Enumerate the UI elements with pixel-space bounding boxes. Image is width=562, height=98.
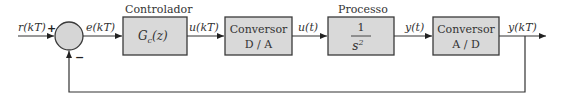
controller-transfer-function: Gc(z) bbox=[138, 29, 168, 45]
adc-line2: A / D bbox=[451, 38, 480, 51]
signal-ykt-label: y(kT) bbox=[507, 21, 537, 34]
summing-junction bbox=[55, 22, 83, 50]
minus-sign: − bbox=[75, 51, 84, 64]
adc-line1: Conversor bbox=[437, 23, 495, 36]
signal-ukt-label: u(kT) bbox=[189, 21, 219, 34]
signal-yt-label: y(t) bbox=[404, 21, 424, 34]
block-diagram: r(kT) + − e(kT) Controlador Gc(z) u(kT) … bbox=[0, 0, 562, 98]
controller-caption: Controlador bbox=[125, 3, 193, 16]
signal-ut-label: u(t) bbox=[298, 21, 318, 34]
dac-line2: D / A bbox=[245, 38, 274, 51]
dac-line1: Conversor bbox=[230, 23, 288, 36]
plant-caption: Processo bbox=[338, 3, 388, 16]
signal-e-label: e(kT) bbox=[86, 21, 115, 34]
plant-numerator: 1 bbox=[358, 21, 365, 34]
signal-r-label: r(kT) bbox=[18, 21, 46, 34]
